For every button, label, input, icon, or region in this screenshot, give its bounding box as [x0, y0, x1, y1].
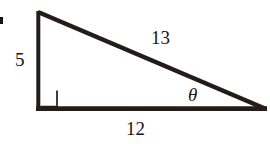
- right-angle-marker-icon: [41, 91, 58, 107]
- triangle-figure: 5 13 12 θ: [0, 0, 270, 144]
- label-horizontal-leg: 12: [126, 119, 145, 138]
- edge-artifact-mark: [0, 17, 3, 24]
- label-vertical-leg: 5: [15, 50, 25, 69]
- label-hypotenuse: 13: [151, 28, 170, 47]
- label-angle-theta: θ: [188, 85, 197, 104]
